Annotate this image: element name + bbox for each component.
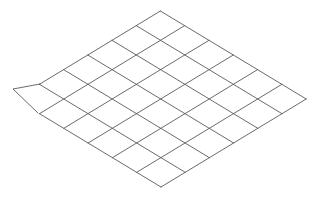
folded-corner-flap — [13, 84, 40, 113]
grid-line-row — [39, 11, 160, 84]
grid-line-col — [40, 114, 162, 187]
grid-lines — [39, 11, 306, 187]
grid-diagram — [0, 0, 320, 203]
